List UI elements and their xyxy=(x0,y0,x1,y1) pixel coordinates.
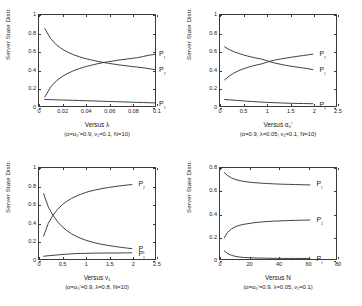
y-tick-label: 0.6 xyxy=(209,188,217,194)
x-tick-label: 80 xyxy=(335,262,341,268)
y-tick-mark xyxy=(220,89,222,90)
series-line-P1 xyxy=(224,173,310,185)
series-label-P0: P₀ xyxy=(138,250,145,259)
x-axis-label: Versus λ xyxy=(38,121,156,128)
series-layer xyxy=(39,15,155,106)
x-tick-mark xyxy=(86,257,87,259)
x-tick-label: 0 xyxy=(37,109,40,115)
series-label-P2: P₂ xyxy=(319,50,326,59)
x-tick-label: 1 xyxy=(266,109,269,115)
series-line-P0 xyxy=(225,99,313,103)
x-tick-mark xyxy=(291,15,292,17)
y-tick-mark xyxy=(220,215,222,216)
y-tick-label: 0.6 xyxy=(28,202,36,208)
y-tick-mark xyxy=(334,108,336,109)
y-tick-mark xyxy=(220,238,222,239)
x-tick-mark xyxy=(244,15,245,17)
x-tick-mark xyxy=(133,104,134,106)
x-tick-mark xyxy=(39,257,40,259)
y-tick-mark xyxy=(153,261,155,262)
y-tick-mark xyxy=(334,261,336,262)
panel-caption: (α=α₀'=0.9, ν₁=0.1, N=10) xyxy=(20,131,174,137)
series-line-P0 xyxy=(224,251,310,259)
y-tick-mark xyxy=(39,52,41,53)
y-tick-mark xyxy=(39,224,41,225)
x-tick-label: 0.5 xyxy=(240,109,248,115)
series-line-P0 xyxy=(45,99,155,102)
x-tick-mark xyxy=(309,168,310,170)
y-tick-mark xyxy=(39,168,41,169)
y-tick-mark xyxy=(153,168,155,169)
x-tick-label: 0.06 xyxy=(104,109,115,115)
series-label-P1: P₁ xyxy=(316,181,322,190)
y-tick-label: 0 xyxy=(214,258,217,264)
x-tick-mark xyxy=(63,257,64,259)
y-tick-label: 1 xyxy=(33,12,36,18)
x-tick-mark xyxy=(157,168,158,170)
y-tick-mark xyxy=(334,215,336,216)
y-tick-mark xyxy=(220,168,222,169)
y-tick-mark xyxy=(39,34,41,35)
series-label-P1: P₁ xyxy=(159,51,165,60)
y-tick-mark xyxy=(153,187,155,188)
x-tick-mark xyxy=(309,257,310,259)
plot-area: 00.511.522.500.20.40.60.81P₂P₁P₀ xyxy=(38,167,156,260)
x-axis-label: Versus α₀' xyxy=(219,121,337,128)
y-tick-mark xyxy=(153,205,155,206)
x-tick-mark xyxy=(157,104,158,106)
y-tick-label: 0.6 xyxy=(28,49,36,55)
y-tick-mark xyxy=(220,52,222,53)
y-tick-mark xyxy=(153,52,155,53)
series-label-P2: P₂ xyxy=(316,217,323,226)
x-tick-mark xyxy=(63,104,64,106)
y-tick-mark xyxy=(153,108,155,109)
x-tick-label: 2 xyxy=(313,109,316,115)
x-tick-mark xyxy=(133,168,134,170)
series-label-P0: P₀ xyxy=(319,101,326,110)
y-tick-label: 1 xyxy=(214,12,217,18)
x-tick-mark xyxy=(291,104,292,106)
y-tick-mark xyxy=(39,108,41,109)
x-axis-label: Versus ν₁ xyxy=(38,274,156,281)
x-tick-label: 2.5 xyxy=(334,109,342,115)
y-tick-label: 0.2 xyxy=(209,87,217,93)
y-tick-mark xyxy=(334,15,336,16)
panel-caption: (α=α₀'=0.9, λ=0.8, N=10) xyxy=(20,284,174,290)
y-tick-mark xyxy=(153,89,155,90)
y-tick-mark xyxy=(39,187,41,188)
y-axis-label: Server State Distr. xyxy=(185,161,192,213)
x-tick-mark xyxy=(250,168,251,170)
plot-canvas xyxy=(39,15,155,106)
y-tick-mark xyxy=(334,52,336,53)
y-tick-mark xyxy=(153,242,155,243)
y-tick-mark xyxy=(334,238,336,239)
x-tick-mark xyxy=(86,168,87,170)
series-line-P1 xyxy=(44,194,132,249)
series-label-P2: P₂ xyxy=(138,180,145,189)
y-tick-mark xyxy=(39,15,41,16)
y-tick-label: 0.8 xyxy=(209,31,217,37)
x-tick-label: 1.5 xyxy=(287,109,295,115)
series-line-P1 xyxy=(225,47,313,70)
panel-top-right: Server State Distr. 00.511.522.500.20.40… xyxy=(181,0,362,153)
y-tick-mark xyxy=(334,89,336,90)
y-tick-mark xyxy=(334,34,336,35)
series-line-P2 xyxy=(224,220,310,238)
panel-top-left: Server State Distr. 00.020.040.060.080.1… xyxy=(0,0,181,153)
series-line-P2 xyxy=(225,54,313,80)
x-tick-label: 60 xyxy=(305,262,311,268)
x-tick-label: 2.5 xyxy=(153,262,161,268)
x-tick-mark xyxy=(110,168,111,170)
panel-bottom-right: Server State Distr. 02040608000.20.40.60… xyxy=(181,153,362,306)
x-tick-label: 0.02 xyxy=(57,109,68,115)
y-tick-label: 0.8 xyxy=(209,165,217,171)
y-tick-mark xyxy=(39,89,41,90)
x-tick-mark xyxy=(86,104,87,106)
y-tick-mark xyxy=(220,191,222,192)
x-tick-mark xyxy=(133,15,134,17)
y-tick-mark xyxy=(153,15,155,16)
x-tick-mark xyxy=(63,168,64,170)
x-tick-label: 1.5 xyxy=(106,262,114,268)
series-line-P2 xyxy=(44,185,132,236)
x-tick-label: 20 xyxy=(246,262,252,268)
